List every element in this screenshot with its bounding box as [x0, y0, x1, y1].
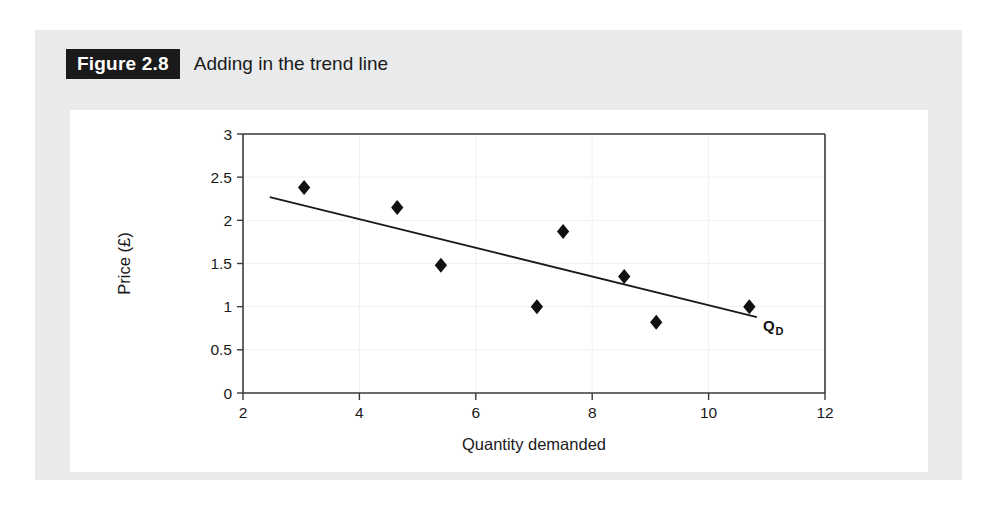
data-point-marker: [531, 299, 543, 314]
y-axis-tick-label: 2: [223, 212, 232, 229]
x-axis-tick-label: 10: [700, 404, 718, 421]
data-point-marker: [391, 200, 403, 215]
x-axis-tick-label: 12: [816, 404, 833, 421]
x-axis-tick-label: 8: [588, 404, 597, 421]
y-axis-tick-label: 3: [223, 126, 232, 143]
figure-number-badge: Figure 2.8: [66, 49, 180, 79]
y-axis-title: Price (£): [115, 232, 133, 294]
data-point-marker: [557, 224, 569, 239]
chart-card: 00.511.522.5324681012Quantity demandedPr…: [70, 110, 928, 472]
figure-caption: Adding in the trend line: [194, 53, 388, 75]
demand-curve-label: Q: [763, 317, 775, 334]
data-point-marker: [650, 315, 662, 330]
x-axis-tick-label: 2: [239, 404, 248, 421]
x-axis-tick-label: 6: [471, 404, 480, 421]
scatter-chart: 00.511.522.5324681012Quantity demandedPr…: [70, 110, 928, 472]
figure-title-row: Figure 2.8 Adding in the trend line: [66, 48, 388, 80]
y-axis-tick-label: 1.5: [210, 255, 232, 272]
data-point-marker: [618, 269, 630, 284]
figure-page: Figure 2.8 Adding in the trend line 00.5…: [0, 0, 1001, 526]
data-point-marker: [435, 258, 447, 273]
data-point-marker: [298, 180, 310, 195]
x-axis-title: Quantity demanded: [462, 435, 606, 453]
demand-curve-label-subscript: D: [775, 325, 783, 337]
x-axis-tick-label: 4: [355, 404, 364, 421]
y-axis-tick-label: 2.5: [210, 169, 232, 186]
y-axis-tick-label: 1: [223, 298, 232, 315]
trend-line: [270, 197, 757, 317]
y-axis-tick-label: 0.5: [210, 341, 232, 358]
data-point-marker: [743, 299, 755, 314]
y-axis-tick-label: 0: [223, 385, 232, 402]
